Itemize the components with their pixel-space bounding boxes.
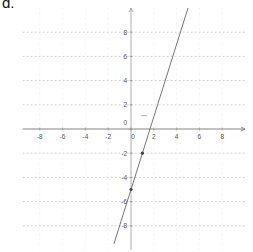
x-tick-label: 0 — [131, 133, 135, 140]
y-tick-label: 4 — [123, 77, 127, 84]
x-tick-label: -8 — [37, 133, 43, 140]
data-point — [141, 152, 144, 155]
x-tick-label: 6 — [198, 133, 202, 140]
y-tick-label: 0 — [123, 119, 127, 126]
x-tick-label: -2 — [105, 133, 111, 140]
y-tick-label: -2 — [121, 150, 127, 157]
x-tick-label: -6 — [60, 133, 66, 140]
y-tick-label: 6 — [123, 53, 127, 60]
data-point — [129, 188, 132, 191]
y-tick-label: -4 — [121, 174, 127, 181]
x-tick-label: 8 — [220, 133, 224, 140]
y-tick-label: 8 — [123, 29, 127, 36]
coordinate-plane: -8-6-4-20246886420-2-4-6-8 — [0, 0, 253, 252]
y-tick-label: 2 — [123, 101, 127, 108]
x-tick-label: 2 — [152, 133, 156, 140]
x-tick-label: 4 — [175, 133, 179, 140]
x-tick-label: -4 — [83, 133, 89, 140]
y-tick-label: -8 — [121, 222, 127, 229]
